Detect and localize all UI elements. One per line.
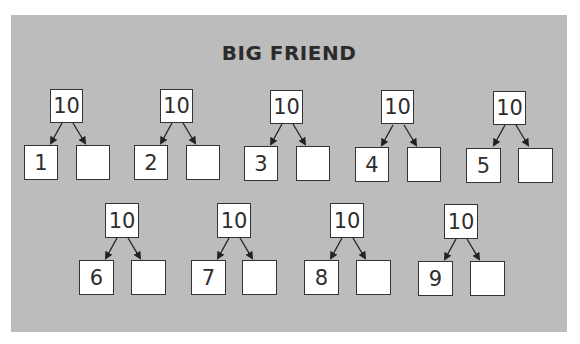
tree-8-left-box: 8 [304,260,339,295]
worksheet-title: BIG FRIEND [11,41,567,65]
tree-1-answer-box[interactable] [76,145,110,180]
tree-7-answer-box[interactable] [242,260,277,295]
tree-9-answer-box[interactable] [470,261,505,296]
tree-3-top-box: 10 [270,90,303,124]
tree-9-top-box: 10 [444,204,478,239]
tree-7-left-box: 7 [191,260,226,295]
tree-1-top-box: 10 [50,89,83,123]
tree-8-top-box: 10 [330,203,364,238]
tree-2-top-box: 10 [160,89,193,123]
tree-6-top-box: 10 [105,203,139,238]
tree-8-answer-box[interactable] [356,260,391,295]
tree-3-left-box: 3 [244,146,278,181]
tree-4-top-box: 10 [381,90,414,124]
tree-9-left-box: 9 [418,261,453,296]
tree-5-top-box: 10 [493,91,526,125]
tree-5-left-box: 5 [466,148,501,183]
tree-6-left-box: 6 [79,260,114,295]
tree-2-answer-box[interactable] [186,145,220,180]
tree-5-answer-box[interactable] [518,148,553,183]
tree-2-left-box: 2 [134,145,168,180]
tree-4-left-box: 4 [355,147,389,182]
tree-6-answer-box[interactable] [131,260,166,295]
tree-3-answer-box[interactable] [296,146,330,181]
tree-1-left-box: 1 [24,145,58,180]
tree-4-answer-box[interactable] [407,147,441,182]
tree-7-top-box: 10 [217,203,251,238]
